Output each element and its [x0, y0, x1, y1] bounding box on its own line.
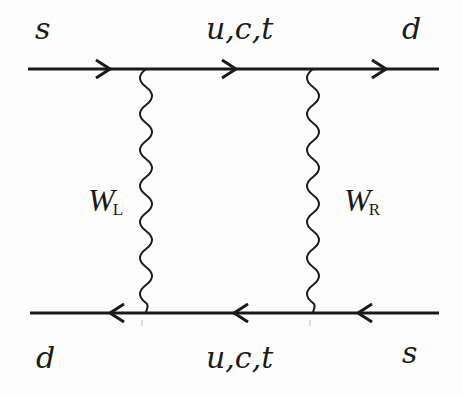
top-internal-label: u,c,t	[206, 14, 273, 44]
feynman-diagram: s u,c,t d WL WR d u,c,t s	[0, 0, 463, 396]
w-right-label: WR	[344, 184, 380, 218]
top-fermion-line	[28, 60, 439, 78]
w-left-subscript: L	[113, 200, 123, 219]
w-right-subscript: R	[369, 200, 380, 219]
bottom-fermion-line	[30, 304, 439, 326]
top-incoming-label: s	[35, 14, 50, 44]
w-right-symbol: W	[344, 182, 371, 218]
top-outgoing-label: d	[402, 14, 421, 44]
w-left-symbol: W	[88, 182, 115, 218]
bottom-incoming-label: s	[402, 338, 417, 368]
bottom-outgoing-label: d	[36, 343, 55, 373]
w-right-boson-line	[307, 69, 319, 313]
bottom-internal-label: u,c,t	[206, 343, 273, 373]
diagram-lines	[0, 0, 463, 396]
w-left-boson-line	[140, 69, 152, 313]
w-left-label: WL	[88, 184, 123, 218]
